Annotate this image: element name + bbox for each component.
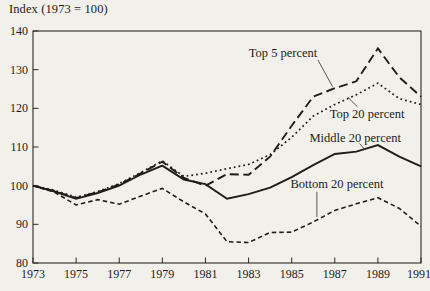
y-axis-label: 110 bbox=[10, 140, 28, 154]
x-axis-label: 1991 bbox=[407, 267, 430, 281]
x-axis-label: 1977 bbox=[107, 267, 131, 281]
annotation-middle-20-percent: Middle 20 percent bbox=[309, 131, 401, 145]
series-line-top-5-percent bbox=[33, 48, 421, 198]
x-axis-label: 1979 bbox=[150, 267, 174, 281]
x-axis-label: 1973 bbox=[21, 267, 45, 281]
y-axis-label: 120 bbox=[10, 101, 28, 115]
x-axis-label: 1985 bbox=[280, 267, 304, 281]
annotation-leader-top-5-percent bbox=[318, 60, 333, 87]
annotation-leader-top-20-percent bbox=[348, 97, 358, 107]
x-axis-label: 1981 bbox=[193, 267, 217, 281]
y-axis-label: 140 bbox=[10, 24, 28, 38]
annotation-top-5-percent: Top 5 percent bbox=[249, 46, 318, 60]
x-axis-label: 1989 bbox=[366, 267, 390, 281]
y-axis-label: 90 bbox=[16, 217, 28, 231]
x-axis-label: 1975 bbox=[64, 267, 88, 281]
x-axis-label: 1987 bbox=[323, 267, 347, 281]
x-axis-label: 1983 bbox=[237, 267, 261, 281]
chart-title: Index (1973 = 100) bbox=[9, 2, 108, 17]
y-axis-label: 130 bbox=[10, 63, 28, 77]
annotation-top-20-percent: Top 20 percent bbox=[330, 107, 405, 121]
annotation-bottom-20-percent: Bottom 20 percent bbox=[290, 177, 384, 191]
income-index-line-chart: 8090100110120130140197319751977197919811… bbox=[0, 0, 430, 291]
income-index-figure: Index (1973 = 100) 809010011012013014019… bbox=[0, 0, 430, 291]
y-axis-label: 100 bbox=[10, 179, 28, 193]
